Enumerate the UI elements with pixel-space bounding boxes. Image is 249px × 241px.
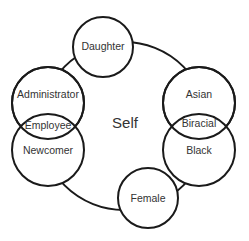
- identity-diagram: Daughter Administrator Employee Newcomer…: [0, 0, 249, 241]
- node-daughter: Daughter: [73, 17, 133, 77]
- newcomer-label: Newcomer: [23, 144, 74, 156]
- employee-label: Employee: [25, 119, 72, 131]
- node-female: Female: [118, 168, 178, 228]
- node-group-work: Administrator Employee Newcomer: [12, 67, 84, 186]
- administrator-label: Administrator: [17, 88, 79, 100]
- node-group-race: Asian Biracial Black: [163, 67, 235, 186]
- black-label: Black: [186, 144, 212, 156]
- female-label: Female: [130, 192, 165, 204]
- daughter-label: Daughter: [81, 40, 125, 52]
- biracial-label: Biracial: [182, 117, 216, 129]
- asian-label: Asian: [186, 88, 212, 100]
- self-label: Self: [112, 114, 139, 131]
- diagram-canvas: Daughter Administrator Employee Newcomer…: [0, 0, 249, 241]
